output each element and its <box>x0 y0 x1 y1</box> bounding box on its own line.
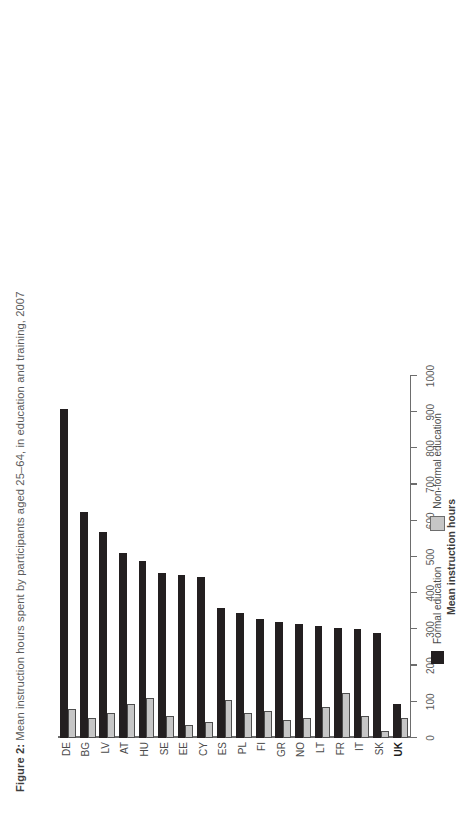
value-tick-label-1000: 1000 <box>425 365 436 387</box>
legend-swatch-nonformal <box>430 516 445 531</box>
bar-nonformal-FR <box>342 693 350 738</box>
bar-group: GR <box>273 376 293 738</box>
bar-formal-HU <box>139 561 147 738</box>
bar-nonformal-GR <box>283 720 291 738</box>
legend-label: Non-formal education <box>432 413 443 509</box>
bar-nonformal-SE <box>166 716 174 738</box>
value-tick-label-100: 100 <box>425 693 436 710</box>
category-label-LV: LV <box>100 742 111 764</box>
bar-group: SK <box>371 376 391 738</box>
category-label-NO: NO <box>295 742 306 764</box>
value-tick-1000 <box>410 375 417 376</box>
plot-area: 01002003004005006007008009001000 DEBGLVA… <box>58 376 410 738</box>
bar-nonformal-UK <box>401 718 409 738</box>
bar-formal-FR <box>334 628 342 738</box>
figure-title: Figure 2: Mean instruction hours spent b… <box>14 291 26 792</box>
bar-formal-GR <box>275 622 283 738</box>
bar-formal-PL <box>236 613 244 738</box>
category-label-AT: AT <box>119 742 130 764</box>
bar-group: IT <box>351 376 371 738</box>
category-label-DE: DE <box>61 742 72 764</box>
chart-legend: Formal educationNon-formal education <box>430 413 445 664</box>
value-tick-0 <box>410 737 417 738</box>
category-label-BG: BG <box>80 742 91 764</box>
bar-group: PL <box>234 376 254 738</box>
bar-nonformal-BG <box>88 718 96 738</box>
legend-item: Formal education <box>431 567 444 664</box>
value-axis-title: Mean instruction hours <box>445 376 457 738</box>
bar-formal-ES <box>217 608 225 738</box>
bar-formal-IT <box>354 629 362 738</box>
bar-nonformal-NO <box>303 718 311 738</box>
bar-group: FI <box>254 376 274 738</box>
bar-formal-EE <box>178 575 186 738</box>
bar-nonformal-CY <box>205 722 213 738</box>
bar-nonformal-DE <box>68 709 76 738</box>
category-label-FR: FR <box>335 742 346 764</box>
legend-swatch-formal <box>431 651 444 664</box>
category-label-FI: FI <box>256 742 267 764</box>
bar-group: LT <box>312 376 332 738</box>
value-tick-300 <box>410 628 417 629</box>
bar-formal-BG <box>80 512 88 738</box>
bar-group: AT <box>117 376 137 738</box>
category-label-IT: IT <box>354 742 365 764</box>
bar-group: BG <box>78 376 98 738</box>
bar-group: NO <box>293 376 313 738</box>
figure-caption-text: Mean instruction hours spent by particip… <box>14 291 26 743</box>
bar-formal-SK <box>373 633 381 738</box>
category-label-SE: SE <box>159 742 170 764</box>
category-label-UK: UK <box>393 742 404 764</box>
bar-group: LV <box>97 376 117 738</box>
category-label-PL: PL <box>237 742 248 764</box>
bar-formal-AT <box>119 553 127 738</box>
category-label-SK: SK <box>374 742 385 764</box>
bar-group: HU <box>136 376 156 738</box>
value-tick-800 <box>410 447 417 448</box>
value-tick-100 <box>410 701 417 702</box>
value-tick-200 <box>410 664 417 665</box>
value-tick-500 <box>410 556 417 557</box>
legend-label: Formal education <box>432 567 443 644</box>
value-tick-400 <box>410 592 417 593</box>
bar-group: DE <box>58 376 78 738</box>
category-label-CY: CY <box>198 742 209 764</box>
bar-formal-FI <box>256 619 264 738</box>
bar-nonformal-LT <box>322 707 330 738</box>
bar-group: FR <box>332 376 352 738</box>
figure-number-label: Figure 2: <box>14 744 26 792</box>
bar-nonformal-PL <box>244 713 252 738</box>
bar-formal-LT <box>315 626 323 738</box>
bar-group: UK <box>390 376 410 738</box>
bar-formal-NO <box>295 624 303 738</box>
figure-rotation-wrapper: Figure 2: Mean instruction hours spent b… <box>0 0 473 814</box>
figure-chart: Figure 2: Mean instruction hours spent b… <box>0 0 473 814</box>
bar-formal-LV <box>99 532 107 738</box>
bar-formal-SE <box>158 573 166 738</box>
bar-nonformal-HU <box>146 698 154 738</box>
value-tick-900 <box>410 411 417 412</box>
category-label-GR: GR <box>276 742 287 764</box>
value-tick-label-0: 0 <box>425 735 436 741</box>
bar-nonformal-AT <box>127 704 135 738</box>
bar-group: CY <box>195 376 215 738</box>
legend-item: Non-formal education <box>430 413 445 531</box>
bar-group: SE <box>156 376 176 738</box>
bar-nonformal-LV <box>107 713 115 738</box>
value-tick-600 <box>410 520 417 521</box>
category-label-HU: HU <box>139 742 150 764</box>
bar-nonformal-ES <box>225 700 233 738</box>
category-label-LT: LT <box>315 742 326 764</box>
bar-nonformal-IT <box>361 716 369 738</box>
category-label-ES: ES <box>217 742 228 764</box>
bar-formal-CY <box>197 577 205 738</box>
bar-formal-DE <box>60 409 68 738</box>
bar-nonformal-SK <box>381 731 389 738</box>
value-tick-700 <box>410 483 417 484</box>
category-label-EE: EE <box>178 742 189 764</box>
bar-nonformal-EE <box>185 725 193 738</box>
bar-formal-UK <box>393 704 401 738</box>
bar-nonformal-FI <box>264 711 272 738</box>
bar-group: ES <box>214 376 234 738</box>
bar-group: EE <box>175 376 195 738</box>
